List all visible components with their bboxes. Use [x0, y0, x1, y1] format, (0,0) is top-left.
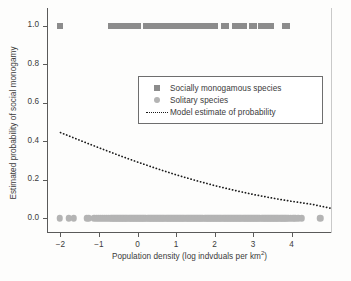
y-tick-label: 1.0	[28, 20, 39, 29]
y-tick-label: 0.6	[28, 97, 39, 106]
y-tick-label: 0.8	[28, 59, 39, 68]
x-tick-label: 2	[212, 240, 217, 249]
y-tick-label: 0.0	[28, 213, 39, 222]
x-tick-label: −1	[94, 240, 103, 249]
x-axis-label: Population density (log indvduals per km…	[47, 252, 332, 261]
x-tick	[253, 232, 254, 237]
x-tick-label: −2	[56, 240, 65, 249]
legend-circle-marker-icon	[144, 97, 170, 104]
x-tick	[292, 232, 293, 237]
x-tick-label: 3	[251, 240, 256, 249]
x-tick-label: 4	[289, 240, 294, 249]
x-tick	[176, 232, 177, 237]
x-tick-label: 0	[135, 240, 140, 249]
y-tick-label: 0.2	[28, 174, 39, 183]
x-axis-label-tail: )	[264, 252, 267, 261]
chart-figure: Estimated probability of social monogamy…	[0, 0, 351, 281]
x-axis-label-text: Population density (log indvduals per km	[112, 252, 261, 261]
x-tick	[60, 232, 61, 237]
legend-dotted-line-icon	[144, 112, 170, 113]
legend-item-monogamous: Socially monogamous species	[144, 82, 316, 94]
x-tick	[215, 232, 216, 237]
axis-spine-bottom	[47, 232, 332, 233]
legend-label-solitary: Solitary species	[170, 96, 228, 105]
y-axis-label: Estimated probability of social monogamy	[7, 3, 21, 243]
x-tick	[99, 232, 100, 237]
legend-item-solitary: Solitary species	[144, 94, 316, 106]
legend-item-model: Model estimate of probability	[144, 106, 316, 118]
x-tick	[138, 232, 139, 237]
y-tick-label: 0.4	[28, 136, 39, 145]
x-tick-label: 1	[174, 240, 179, 249]
legend-label-model: Model estimate of probability	[170, 108, 276, 117]
legend-square-marker-icon	[144, 85, 170, 91]
legend-label-monogamous: Socially monogamous species	[170, 84, 281, 93]
chart-legend: Socially monogamous species Solitary spe…	[138, 76, 323, 124]
